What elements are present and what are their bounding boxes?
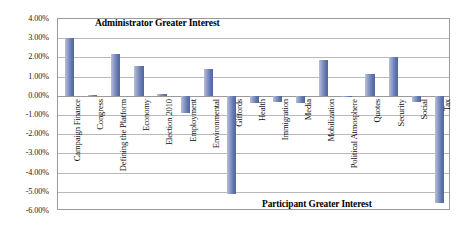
x-tick-label: Employment [188,99,198,142]
y-tick-label: -1.00% [26,110,49,119]
x-tick-label: Campaign Finance [72,99,82,161]
x-tick-label: Tax [442,99,452,111]
x-tick-label: Giffords [234,99,244,127]
x-tick-label: Environmental [211,99,221,148]
x-tick-label: Mobilization [326,99,336,142]
x-tick-label: Defining the Platform [118,99,128,171]
bar-chart: 4.00%3.00%2.00%1.00%0.00%-1.00%-2.00%-3.… [0,0,457,237]
bar [134,66,143,96]
bar [319,60,328,96]
y-tick-label: -3.00% [26,148,49,157]
y-tick-label: -2.00% [26,129,49,138]
bar [204,69,213,96]
y-tick-label: 0.00% [28,90,49,99]
y-tick-label: -4.00% [26,167,49,176]
x-tick-label: Security [396,99,406,126]
y-tick-label: 2.00% [28,52,49,61]
x-tick-label: Social [419,99,429,120]
x-tick-label: Economy [141,99,151,131]
y-tick-label: -6.00% [26,206,49,215]
bar [111,54,120,96]
x-tick-label: Health [257,99,267,121]
x-tick-label: Immigration [280,99,290,140]
x-tick-label: Congress [95,99,105,130]
y-tick-label: 4.00% [28,14,49,23]
x-tick-label: Election 2010 [164,99,174,145]
y-axis: 4.00%3.00%2.00%1.00%0.00%-1.00%-2.00%-3.… [0,0,54,237]
x-axis-category-labels: Campaign FinanceCongressDefining the Pla… [57,95,450,237]
annotation-participant-greater-interest: Participant Greater Interest [262,199,372,209]
bar [389,57,398,95]
x-tick-label: Political Atmosphere [349,99,359,168]
y-tick-label: -5.00% [26,186,49,195]
annotation-administrator-greater-interest: Administrator Greater Interest [95,17,220,28]
y-tick-label: 1.00% [28,71,49,80]
bar [365,74,374,96]
x-tick-label: Media [303,99,313,120]
y-tick-label: 3.00% [28,33,49,42]
x-tick-label: Quotes [372,99,382,122]
bar [65,38,74,96]
